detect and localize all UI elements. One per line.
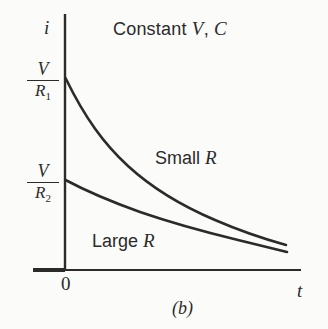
curve-label-large-r-symbol: R: [143, 230, 155, 251]
y-tick-label-v-over-r1: V R1: [26, 60, 60, 103]
chart-title-symbol-c: C: [214, 18, 227, 39]
origin-label: 0: [61, 274, 71, 293]
curve-label-large-r-text: Large: [92, 231, 143, 251]
y-tick-label-v-over-r2: V R2: [26, 162, 60, 205]
chart-title-symbol-v: V: [192, 18, 204, 39]
chart-title-prefix: Constant: [113, 19, 192, 39]
fraction-numerator: V: [26, 60, 60, 80]
figure-caption: (b): [172, 299, 193, 317]
fraction-denominator: R2: [26, 183, 60, 205]
fraction-denominator: R1: [26, 81, 60, 103]
fraction-numerator: V: [26, 162, 60, 182]
denominator-symbol: R: [35, 81, 45, 100]
chart-title-comma: ,: [204, 19, 214, 39]
denominator-subscript: 2: [45, 192, 51, 204]
figure-rc-discharge-current: Constant V, C i t V R1 V R2 Small R Larg…: [0, 0, 328, 329]
y-axis-label: i: [44, 18, 49, 37]
denominator-symbol: R: [35, 183, 45, 202]
x-axis-label: t: [297, 281, 302, 300]
curve-label-small-r-symbol: R: [205, 147, 217, 168]
denominator-subscript: 1: [45, 90, 51, 102]
curve-label-small-r: Small R: [155, 148, 217, 167]
chart-title: Constant V, C: [113, 19, 227, 38]
curve-label-small-r-text: Small: [155, 148, 205, 168]
curve-label-large-r: Large R: [92, 231, 155, 250]
